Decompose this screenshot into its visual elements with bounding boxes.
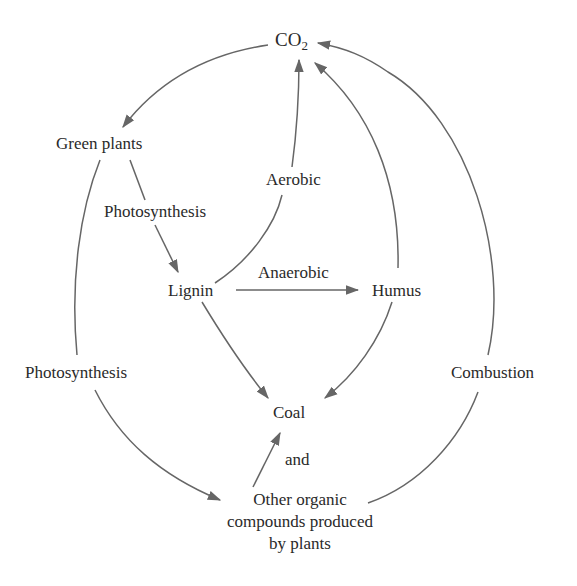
node-green-plants: Green plants xyxy=(56,134,142,154)
edge-photosynthesis-to-lignin xyxy=(155,225,178,272)
edge-green-plants-to-photosynthesis xyxy=(130,160,145,200)
edge-co2-to-green-plants xyxy=(123,45,268,127)
carbon-cycle-diagram: CO2 Green plants Lignin Humus Coal Other… xyxy=(0,0,577,586)
edge-outer-photosynthesis-to-other xyxy=(95,390,220,500)
node-lignin: Lignin xyxy=(168,281,213,301)
label-photosynthesis-inner: Photosynthesis xyxy=(104,202,206,222)
co2-subscript: 2 xyxy=(301,38,308,53)
label-combustion: Combustion xyxy=(451,363,534,383)
edge-lignin-to-coal xyxy=(202,302,268,398)
other-line-1: Other organic xyxy=(200,489,400,511)
node-co2: CO2 xyxy=(275,30,308,56)
other-line-3: by plants xyxy=(200,533,400,555)
other-line-2: compounds produced xyxy=(200,511,400,533)
node-humus: Humus xyxy=(372,281,421,301)
edge-combustion-to-co2 xyxy=(318,43,494,355)
edge-green-plants-to-outer-photosynthesis xyxy=(75,160,100,355)
label-anaerobic: Anaerobic xyxy=(258,263,329,283)
label-and: and xyxy=(285,450,310,470)
label-photosynthesis-outer: Photosynthesis xyxy=(25,363,127,383)
edge-aerobic-to-co2 xyxy=(292,60,299,167)
label-aerobic: Aerobic xyxy=(266,170,321,190)
edge-humus-to-coal xyxy=(325,302,392,398)
co2-label: CO xyxy=(275,29,301,50)
edge-other-to-coal xyxy=(253,433,280,487)
edge-other-to-combustion xyxy=(368,392,478,503)
node-coal: Coal xyxy=(273,403,305,423)
node-other-organic-compounds: Other organic compounds produced by plan… xyxy=(200,489,400,555)
edge-humus-to-co2 xyxy=(315,63,398,268)
